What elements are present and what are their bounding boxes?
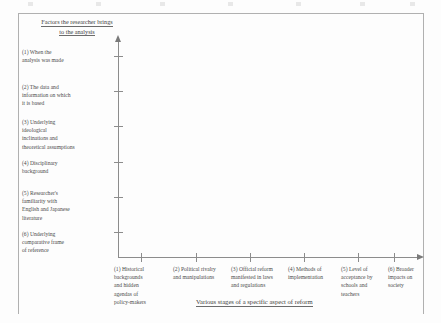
y-axis-category-label-4: (4) Disciplinarybackground bbox=[22, 159, 104, 175]
label-line: society bbox=[388, 282, 404, 288]
x-axis-title-text: Various stages of a specific aspect of r… bbox=[196, 298, 313, 307]
label-line: acceptance by bbox=[341, 274, 373, 280]
label-line: (2) Political rivalry bbox=[173, 266, 216, 272]
label-line: English and Japanese bbox=[22, 206, 70, 212]
x-axis-tick bbox=[141, 253, 142, 262]
label-line: (4) Disciplinary bbox=[22, 160, 58, 166]
y-axis-tick bbox=[114, 232, 123, 233]
label-line: (1) When the bbox=[22, 49, 51, 55]
x-axis-line bbox=[118, 257, 418, 258]
label-line: and regulations bbox=[231, 282, 265, 288]
y-axis-tick bbox=[114, 126, 123, 127]
y-axis-line bbox=[118, 42, 119, 257]
label-line: impacts on bbox=[388, 274, 412, 280]
y-axis-title: Factors the researcher brings to the ana… bbox=[22, 17, 132, 36]
y-axis-tick bbox=[114, 91, 123, 92]
y-axis-category-label-1: (1) When theanalysis was made bbox=[22, 48, 104, 64]
x-axis-arrow-icon bbox=[417, 254, 424, 260]
label-line: it is based bbox=[22, 100, 44, 106]
label-line: background bbox=[22, 168, 48, 174]
label-line: and manipulations bbox=[173, 274, 214, 280]
label-line: (1) Historical bbox=[114, 266, 144, 272]
x-axis-category-label-5: (5) Level ofacceptance byschools andteac… bbox=[341, 265, 383, 298]
label-line: literature bbox=[22, 215, 42, 221]
label-line: (6) Broader bbox=[388, 266, 414, 272]
label-line: (2) The data and bbox=[22, 84, 59, 90]
x-axis-tick bbox=[358, 253, 359, 262]
x-axis-category-label-6: (6) Broaderimpacts onsociety bbox=[388, 265, 428, 290]
label-line: policy-makers bbox=[114, 299, 146, 305]
label-line: implementation bbox=[288, 274, 323, 280]
label-line: theoretical assumptions bbox=[22, 144, 75, 150]
y-axis-category-label-6: (6) Underlyingcomparative frameof refere… bbox=[22, 230, 104, 255]
label-line: agendas of bbox=[114, 291, 138, 297]
label-line: inclinations and bbox=[22, 135, 58, 141]
label-line: of reference bbox=[22, 247, 49, 253]
x-axis-tick bbox=[250, 253, 251, 262]
x-axis-category-label-1: (1) Historicalbackgroundsand hiddenagend… bbox=[114, 265, 166, 306]
label-line: (3) Underlying bbox=[22, 119, 55, 125]
x-axis-category-label-2: (2) Political rivalryand manipulations bbox=[173, 265, 228, 281]
label-line: ideological bbox=[22, 127, 47, 133]
label-line: familiarity with bbox=[22, 198, 57, 204]
label-line: information on which bbox=[22, 92, 70, 98]
label-line: backgrounds bbox=[114, 274, 143, 280]
y-axis-category-label-5: (5) Researcher'sfamiliarity withEnglish … bbox=[22, 189, 104, 222]
label-line: (6) Underlying bbox=[22, 231, 55, 237]
scan-artifacts bbox=[0, 0, 441, 12]
y-axis-category-label-3: (3) Underlyingideologicalinclinations an… bbox=[22, 118, 104, 151]
label-line: (5) Level of bbox=[341, 266, 368, 272]
label-line: (3) Official reform bbox=[231, 266, 273, 272]
x-axis-category-label-3: (3) Official reformmanifested in lawsand… bbox=[231, 265, 285, 290]
y-axis-tick bbox=[114, 162, 123, 163]
label-line: and hidden bbox=[114, 282, 139, 288]
y-axis-title-line1: Factors the researcher brings bbox=[41, 18, 112, 27]
x-axis-category-label-4: (4) Methods ofimplementation bbox=[288, 265, 338, 281]
label-line: teachers bbox=[341, 291, 359, 297]
y-axis-category-label-2: (2) The data andinformation on whichit i… bbox=[22, 83, 104, 108]
y-axis-arrow-icon bbox=[115, 35, 121, 42]
scanned-page: Factors the researcher brings to the ana… bbox=[0, 0, 441, 323]
label-line: (4) Methods of bbox=[288, 266, 322, 272]
x-axis-tick bbox=[394, 253, 395, 262]
label-line: manifested in laws bbox=[231, 274, 273, 280]
x-axis-tick bbox=[196, 253, 197, 262]
y-axis-tick bbox=[114, 56, 123, 57]
label-line: comparative frame bbox=[22, 239, 64, 245]
label-line: (5) Researcher's bbox=[22, 190, 58, 196]
y-axis-tick bbox=[114, 197, 123, 198]
y-axis-title-line2: to the analysis bbox=[59, 28, 94, 37]
x-axis-tick bbox=[304, 253, 305, 262]
x-axis-title: Various stages of a specific aspect of r… bbox=[196, 297, 313, 306]
label-line: schools and bbox=[341, 282, 367, 288]
label-line: analysis was made bbox=[22, 57, 64, 63]
